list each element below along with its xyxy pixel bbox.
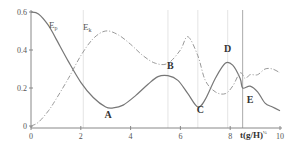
annotation-b: B — [167, 60, 174, 71]
annotation-d: D — [224, 43, 231, 54]
line-chart: 0246810 00.20.40.6 Ep Ek ABCDE t(g/H)½ — [0, 0, 297, 148]
x-tick-label: 0 — [29, 132, 33, 141]
x-tick-label: 4 — [129, 132, 133, 141]
series-ek-label: Ek — [83, 22, 92, 33]
annotation-a: A — [105, 109, 113, 120]
annotation-e: E — [247, 94, 254, 105]
x-axis-label: t(g/H)½ — [240, 130, 267, 140]
x-tick-label: 6 — [178, 132, 182, 141]
series-ep-label: Ep — [49, 20, 58, 31]
y-tick-label: 0.4 — [17, 46, 27, 55]
x-tick-label: 8 — [228, 132, 232, 141]
y-tick-label: 0.6 — [17, 8, 27, 17]
x-tick-label: 2 — [79, 132, 83, 141]
y-tick-label: 0 — [23, 122, 27, 131]
y-tick-label: 0.2 — [17, 84, 27, 93]
x-tick-label: 10 — [276, 132, 284, 141]
annotation-c: C — [197, 104, 204, 115]
axes — [31, 10, 282, 128]
